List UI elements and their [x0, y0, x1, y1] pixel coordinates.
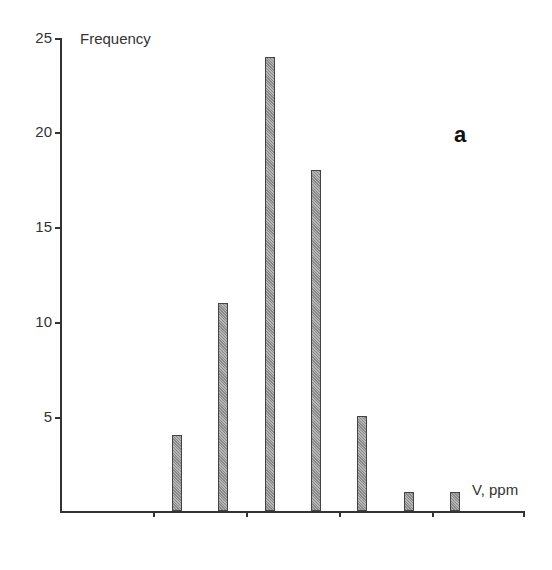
x-tick: [523, 511, 525, 517]
panel-label: a: [454, 122, 466, 148]
bar: [450, 492, 460, 511]
bar: [172, 435, 182, 511]
y-tick-15: [55, 227, 61, 229]
x-axis-title: V, ppm: [472, 481, 518, 498]
bar: [218, 303, 228, 511]
bar: [265, 57, 275, 511]
x-tick: [339, 511, 341, 517]
x-tick: [246, 511, 248, 517]
y-label-5: 5: [16, 408, 52, 425]
y-label-10: 10: [16, 313, 52, 330]
y-tick-25: [55, 38, 61, 40]
x-tick: [153, 511, 155, 517]
x-tick: [432, 511, 434, 517]
y-axis-title: Frequency: [80, 30, 151, 47]
y-label-25: 25: [16, 29, 52, 46]
bar: [311, 170, 321, 511]
y-tick-10: [55, 322, 61, 324]
y-axis: [60, 38, 62, 512]
y-tick-5: [55, 417, 61, 419]
y-label-20: 20: [16, 123, 52, 140]
bar: [404, 492, 414, 511]
bar: [357, 416, 367, 511]
y-label-15: 15: [16, 218, 52, 235]
y-tick-20: [55, 132, 61, 134]
x-axis: [60, 511, 524, 513]
